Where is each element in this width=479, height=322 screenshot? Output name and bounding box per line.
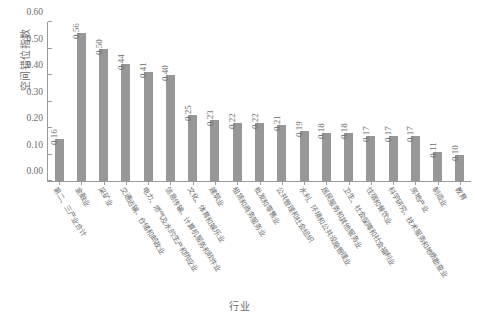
x-label-slot: 水利、环境和公共设施管理业 [292,184,314,288]
bar-slot: 0.18 [315,22,337,181]
x-axis-title: 行业 [0,298,479,313]
y-tick-label: 0.50 [26,34,43,44]
x-label-slot: 住宿和餐饮业 [359,184,381,288]
x-category-label: 教育 [453,186,467,202]
bar-value-label: 0.44 [117,55,126,71]
bar-value-label: 0.40 [161,65,170,81]
bar[interactable]: 0.22 [255,123,264,181]
x-label-slot: 卫生、社会保障和社会福利业 [337,184,359,288]
x-label-slot: 租赁和商务服务业 [226,184,248,288]
x-axis-category-labels: 第二、三产业合计金融业采矿业交通运输、仓储和邮政业电力、燃气及水的生产和供应业信… [47,184,471,288]
bar-slot: 0.17 [360,22,382,181]
bar-value-label: 0.22 [251,113,260,129]
x-label-slot: 采矿业 [92,184,114,288]
bar-slot: 0.16 [48,22,70,181]
bar[interactable]: 0.10 [455,155,464,182]
bar-slot: 0.22 [226,22,248,181]
bar[interactable]: 0.17 [366,136,375,181]
x-label-slot: 制造业 [426,184,448,288]
bar-chart-figure: 空间错位指数 0.000.100.200.300.400.500.60 0.16… [0,0,479,322]
bar-value-label: 0.25 [184,105,193,121]
bar-value-label: 0.23 [206,110,215,126]
bar[interactable]: 0.18 [344,133,353,181]
bar[interactable]: 0.19 [300,131,309,181]
bar-value-label: 0.11 [429,142,438,157]
bar-value-label: 0.18 [340,123,349,139]
bar-series: 0.160.560.500.440.410.400.250.230.220.22… [48,22,471,181]
bar-value-label: 0.56 [72,23,81,39]
bar[interactable]: 0.11 [433,152,442,181]
y-tick-label: 0.60 [26,7,43,17]
bar-slot: 0.21 [271,22,293,181]
x-label-slot: 信息传输、计算机服务和软件业 [159,184,181,288]
x-label-slot: 交通运输、仓储和邮政业 [114,184,136,288]
bar-slot: 0.10 [449,22,471,181]
x-label-slot: 居民服务和其他服务业 [315,184,337,288]
x-category-label: 采矿业 [96,186,114,208]
y-tick-label: 0.00 [26,166,43,176]
x-label-slot: 文化、体育和娱乐业 [181,184,203,288]
y-tick-label: 0.40 [26,60,43,70]
x-label-slot: 科学研究、技术服务和地质勘查业 [382,184,404,288]
x-category-label: 制造业 [431,186,449,208]
bar-value-label: 0.19 [295,121,304,137]
bar-value-label: 0.21 [273,115,282,131]
bar[interactable]: 0.16 [55,139,64,181]
bar-slot: 0.17 [404,22,426,181]
bar-value-label: 0.50 [95,39,104,55]
bar-slot: 0.22 [248,22,270,181]
bar[interactable]: 0.17 [411,136,420,181]
bar[interactable]: 0.44 [121,64,130,181]
bar-slot: 0.23 [204,22,226,181]
bar-value-label: 0.22 [228,113,237,129]
bar-value-label: 0.17 [406,126,415,142]
bar-value-label: 0.18 [317,123,326,139]
bar-slot: 0.11 [427,22,449,181]
bar-slot: 0.50 [93,22,115,181]
y-tick-label: 0.30 [26,87,43,97]
bar[interactable]: 0.41 [144,72,153,181]
bar-value-label: 0.41 [139,62,148,78]
bar-value-label: 0.17 [384,126,393,142]
x-label-slot: 金融业 [69,184,91,288]
x-label-slot: 批发和零售业 [248,184,270,288]
bar-slot: 0.44 [115,22,137,181]
y-tick-label: 0.20 [26,113,43,123]
bar-slot: 0.17 [382,22,404,181]
bar-value-label: 0.10 [451,145,460,161]
bar[interactable]: 0.56 [77,33,86,181]
bar[interactable]: 0.22 [233,123,242,181]
bar[interactable]: 0.17 [389,136,398,181]
y-tick-label: 0.10 [26,140,43,150]
bar-slot: 0.56 [70,22,92,181]
x-label-slot: 建筑业 [203,184,225,288]
bar[interactable]: 0.23 [210,120,219,181]
bar-slot: 0.25 [182,22,204,181]
x-label-slot: 电力、燃气及水的生产和供应业 [136,184,158,288]
bar[interactable]: 0.18 [322,133,331,181]
bar-slot: 0.19 [293,22,315,181]
x-label-slot: 房地产业 [404,184,426,288]
bar[interactable]: 0.50 [99,49,108,182]
bar-value-label: 0.16 [50,129,59,145]
bar[interactable]: 0.25 [188,115,197,181]
x-label-slot: 教育 [449,184,471,288]
bar-slot: 0.18 [337,22,359,181]
bar-slot: 0.40 [159,22,181,181]
bar-slot: 0.41 [137,22,159,181]
x-label-slot: 公共管理和社会组织 [270,184,292,288]
x-category-label: 金融业 [74,186,92,208]
bar[interactable]: 0.21 [277,125,286,181]
x-label-slot: 第二、三产业合计 [47,184,69,288]
bar-value-label: 0.17 [362,126,371,142]
x-category-label: 建筑业 [208,186,226,208]
bar[interactable]: 0.40 [166,75,175,181]
plot-area: 0.000.100.200.300.400.500.60 0.160.560.5… [47,22,471,182]
